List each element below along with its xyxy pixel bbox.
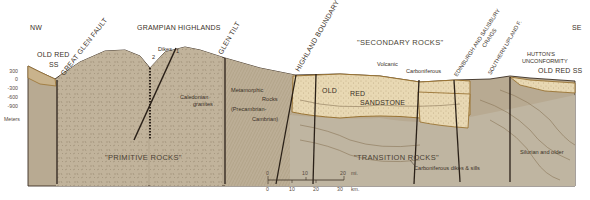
metamorphic-label: Metamorphic [231,87,264,93]
carboniferous-label: Carboniferous [406,68,441,74]
svg-text:0: 0 [15,76,18,82]
meters-label: Meters [4,116,20,122]
ors-old-label: OLD [322,87,337,94]
highland-boundary-label: HIGHLAND BOUNDARY F. [294,0,345,72]
svg-text:20: 20 [340,170,346,176]
depth-axis: 300 0 -300 -600 -900 Meters [4,68,20,122]
svg-text:-900: -900 [8,103,18,109]
nw-label: NW [30,24,42,31]
volcanic-label: Volcanic [377,61,398,67]
transition-rocks-label: "TRANSITION ROCKS" [354,153,439,162]
old-red-left-label: OLD RED [37,51,70,58]
svg-text:0: 0 [266,170,269,176]
ors-red-label: RED [350,90,365,97]
carb-dikes-label: Carboniferous dikes & sills [414,165,480,171]
dike-2-label: 2 [152,54,155,60]
svg-text:-600: -600 [8,94,18,100]
se-label: SE [572,24,582,31]
ors-sandstone-label: SANDSTONE [360,99,405,106]
svg-text:10: 10 [289,186,295,192]
svg-text:0: 0 [266,186,269,192]
primitive-rocks-label: "PRIMITIVE ROCKS" [105,153,182,162]
secondary-rocks-label: "SECONDARY ROCKS" [357,38,443,47]
hutton-label-1: HUTTON'S [527,51,555,57]
granites-label: granites [193,101,213,107]
svg-text:30: 30 [337,186,343,192]
dike-1-label: 1 [176,48,179,54]
precambrian-label: (Precambrian- [231,106,267,112]
svg-text:-300: -300 [8,85,18,91]
grampian-label: GRAMPIAN HIGHLANDS [137,24,221,31]
dikes-label: Dikes [158,46,172,52]
svg-text:300: 300 [9,68,18,74]
svg-text:km.: km. [351,186,359,192]
ss-left-label: SS [49,61,59,68]
svg-text:mi.: mi. [351,170,358,176]
hutton-label-2: UNCONFORMITY [522,58,568,64]
rocks-label: Rocks [262,96,278,102]
svg-text:20: 20 [313,186,319,192]
caledonian-label: Caledonian [180,94,208,100]
old-red-ss-right-label: OLD RED SS [538,67,583,74]
svg-text:10: 10 [302,170,308,176]
cambrian-label: Cambrian) [252,116,278,122]
silurian-label: Silurian and older [520,149,564,155]
geologic-cross-section: NW SE 300 0 -300 -600 -900 Meters GRAMPI… [0,0,590,200]
